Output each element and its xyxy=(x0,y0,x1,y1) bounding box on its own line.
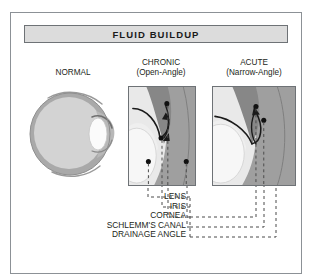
normal-eye-art xyxy=(26,84,126,182)
label-lens: LENS xyxy=(8,192,188,202)
chronic-marker-iris xyxy=(159,135,164,140)
caption-normal: NORMAL xyxy=(30,68,116,78)
normal-eye-diagram xyxy=(26,84,126,182)
caption-acute-line1: ACUTE xyxy=(212,58,296,68)
caption-chronic-line1: CHRONIC xyxy=(127,58,195,68)
lens-shape xyxy=(89,118,107,150)
chronic-marker-drainage xyxy=(184,159,189,164)
caption-normal-line1: NORMAL xyxy=(30,68,116,78)
acute-marker-drainage xyxy=(261,118,266,123)
chronic-marker-cornea xyxy=(164,101,169,106)
caption-chronic-line2: (Open-Angle) xyxy=(127,68,195,78)
chronic-marker-lens xyxy=(146,159,151,164)
acute-marker-cornea xyxy=(253,104,258,109)
caption-acute: ACUTE (Narrow-Angle) xyxy=(212,58,296,77)
figure-title: FLUID BUILDUP xyxy=(112,29,199,40)
caption-acute-line2: (Narrow-Angle) xyxy=(212,68,296,78)
panel-acute xyxy=(212,86,296,186)
figure-title-bar: FLUID BUILDUP xyxy=(24,25,288,43)
acute-panel-art xyxy=(213,87,295,185)
panel-chronic xyxy=(128,86,196,186)
label-list: LENS IRIS CORNEA SCHLEMM'S CANAL DRAINAG… xyxy=(8,192,188,240)
label-drainage-angle: DRAINAGE ANGLE xyxy=(8,230,188,240)
chronic-panel-art xyxy=(129,87,195,185)
caption-chronic: CHRONIC (Open-Angle) xyxy=(127,58,195,77)
